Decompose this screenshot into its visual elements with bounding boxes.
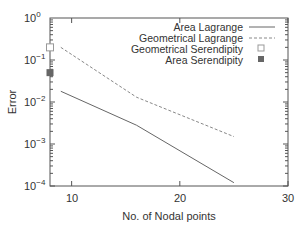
legend-area-serendipity: Area Serendipity [165, 54, 243, 66]
area-serendipity-marker [47, 69, 54, 76]
area-lagrange-line [61, 91, 234, 182]
svg-text:10−2: 10−2 [24, 94, 46, 108]
y-tick-labels: 100 10−1 10−2 10−3 10−4 [24, 10, 46, 192]
x-axis-label: No. of Nodal points [122, 210, 216, 222]
svg-text:10−4: 10−4 [24, 178, 46, 192]
error-chart: 100 10−1 10−2 10−3 10−4 10 20 30 No. of … [0, 0, 308, 226]
legend: Area Lagrange Geometrical Lagrange Geome… [131, 21, 275, 66]
svg-text:10−3: 10−3 [24, 136, 46, 150]
svg-text:10−1: 10−1 [24, 52, 46, 66]
svg-text:20: 20 [174, 192, 186, 204]
y-axis-label: Error [6, 89, 18, 114]
svg-text:30: 30 [282, 192, 294, 204]
svg-text:100: 100 [24, 10, 41, 24]
geometrical-serendipity-marker [47, 44, 54, 51]
x-tick-labels: 10 20 30 [66, 192, 294, 204]
svg-text:10: 10 [66, 192, 78, 204]
